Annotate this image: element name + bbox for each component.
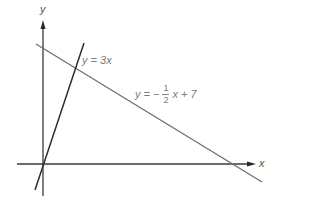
x-axis-arrow-icon <box>247 162 256 167</box>
y-axis-label: y <box>40 4 46 15</box>
line2-prefix: y = − <box>135 89 159 100</box>
fraction-denominator: 2 <box>163 96 168 105</box>
y-axis-arrow-icon <box>41 20 46 29</box>
line2-suffix: x + 7 <box>172 89 196 100</box>
x-axis-label: x <box>259 158 265 169</box>
line1-equation-label: y = 3x <box>82 55 112 66</box>
line2-equation-label: y = − 1 2 x + 7 <box>135 84 197 105</box>
fraction-numerator: 1 <box>163 84 168 93</box>
fraction-one-half: 1 2 <box>162 84 169 105</box>
line-y-neg-half-x-plus-7 <box>36 44 262 182</box>
